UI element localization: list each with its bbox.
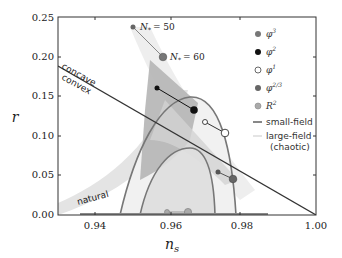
x-tick-label: 0.98 xyxy=(231,220,253,231)
legend: φ3 φ2 φ1 φ2/3 R2 small-field large-field… xyxy=(253,27,313,152)
legend-phi1-label: φ1 xyxy=(266,63,276,75)
legend-phi3-marker xyxy=(255,31,261,37)
phi23-n50-point xyxy=(216,170,221,175)
y-tick-label: 0.10 xyxy=(32,130,54,141)
n50-label: N*= 50 xyxy=(139,22,175,33)
legend-large-field-label: large-field xyxy=(266,131,311,141)
legend-r2-marker xyxy=(255,103,261,109)
svg-text:N*= 50: N*= 50 xyxy=(139,22,175,33)
svg-text:N*= 60: N*= 60 xyxy=(169,52,205,63)
x-tick-label: 1.00 xyxy=(305,220,327,231)
y-tick-label: 0.15 xyxy=(32,90,54,101)
phi23-n60-point xyxy=(229,175,237,183)
legend-phi23-label: φ2/3 xyxy=(266,81,282,93)
y-tick-label: 0.00 xyxy=(32,209,54,220)
legend-small-field-label: small-field xyxy=(266,117,313,127)
legend-phi2-marker xyxy=(255,49,261,55)
phi1-n50-point xyxy=(203,120,208,125)
chart: concave convex natural N*= 50 N*= 60 φ3 … xyxy=(0,0,342,258)
x-tick-label: 0.96 xyxy=(160,220,182,231)
phi2-n50-point xyxy=(155,86,160,91)
legend-phi23-marker xyxy=(255,85,261,91)
x-axis-label: ns xyxy=(165,236,179,254)
x-tick-label: 0.94 xyxy=(84,220,106,231)
legend-phi2-label: φ2 xyxy=(266,45,276,57)
y-tick-label: 0.25 xyxy=(32,12,54,23)
phi1-n60-point xyxy=(221,129,229,137)
phi3-n60-point xyxy=(159,53,167,61)
phi2-n60-point xyxy=(190,106,198,114)
legend-phi3-label: φ3 xyxy=(266,27,276,39)
legend-chaotic-label: (chaotic) xyxy=(270,142,310,152)
y-tick-label: 0.05 xyxy=(32,169,54,180)
legend-r2-label: R2 xyxy=(265,99,277,111)
phi3-n50-point xyxy=(131,25,136,30)
legend-phi1-marker xyxy=(255,67,261,73)
n60-label: N*= 60 xyxy=(169,52,205,63)
y-tick-label: 0.20 xyxy=(32,51,54,62)
y-axis-label: r xyxy=(12,109,20,125)
